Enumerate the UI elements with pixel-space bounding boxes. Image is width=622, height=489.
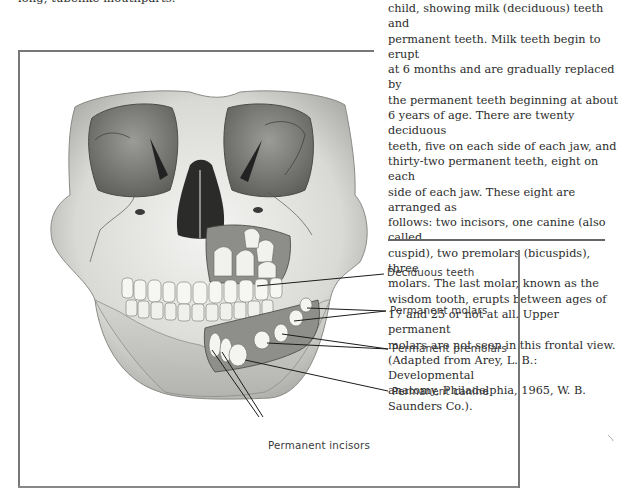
label-permanent-incisors: Permanent incisors: [268, 439, 370, 451]
label-permanent-canine: Permanent canine: [392, 385, 489, 397]
left-orbit: [89, 104, 178, 197]
skull-illustration: [0, 0, 622, 489]
label-deciduous-teeth: Deciduous teeth: [387, 266, 475, 278]
label-permanent-premolars: Permanent premolars: [392, 342, 507, 354]
stray-mark: [607, 434, 615, 442]
label-permanent-molars: Permanent molars: [390, 304, 488, 316]
